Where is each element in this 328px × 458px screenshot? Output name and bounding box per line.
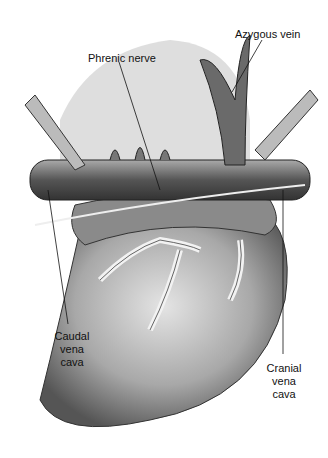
label-caudal-vena-cava: Caudal vena cava — [52, 330, 92, 369]
label-cranial-vena-cava: Cranial vena cava — [262, 362, 306, 401]
label-azygous-vein: Azygous vein — [235, 28, 300, 41]
heart-diagram: Azygous vein Phrenic nerve Caudal vena c… — [0, 0, 328, 458]
label-phrenic-nerve: Phrenic nerve — [88, 52, 156, 65]
caudal-leader-line — [48, 190, 68, 324]
